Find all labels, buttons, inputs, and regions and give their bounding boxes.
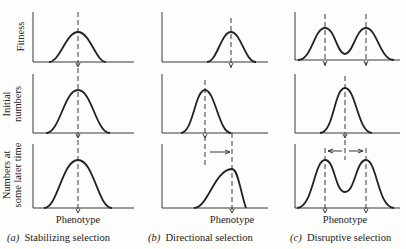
axes	[162, 144, 268, 208]
axes	[295, 74, 400, 133]
initial-label-line1: Initial	[1, 79, 12, 129]
panel-b-initial	[162, 74, 268, 133]
x-axis-label-a: Phenotype	[38, 214, 118, 225]
selection-diagram	[0, 0, 406, 249]
fitness-curve	[207, 32, 256, 62]
initial-distribution-curve	[320, 88, 372, 133]
fitness-label: Fitness	[15, 22, 26, 52]
axes	[33, 144, 134, 208]
caption-a-text: Stabilizing selection	[25, 232, 110, 243]
panel-a-later	[33, 144, 134, 208]
caption-c-letter: (c)	[290, 232, 302, 243]
caption-a: (a) Stabilizing selection	[7, 232, 110, 243]
later-distribution-curve	[297, 160, 394, 208]
initial-label-line2: numbers	[12, 79, 23, 129]
arrow-icon	[76, 209, 80, 213]
fitness-curve	[49, 32, 106, 62]
panel-a-fitness	[33, 12, 134, 62]
later-label-line2: some later time	[12, 135, 23, 215]
panel-a-initial	[33, 74, 134, 133]
later-label-line1: Numbers at	[1, 135, 12, 215]
caption-c: (c) Disruptive selection	[290, 232, 391, 243]
panel-c-initial	[295, 74, 400, 133]
axes	[33, 12, 134, 62]
row-label-fitness: Fitness	[15, 15, 26, 59]
panel-b-later	[162, 144, 268, 208]
caption-c-text: Disruptive selection	[307, 232, 391, 243]
x-axis-label-c: Phenotype	[305, 214, 385, 225]
panel-c-fitness	[295, 12, 400, 60]
initial-distribution-curve	[181, 90, 231, 133]
panel-b-fitness	[162, 12, 268, 62]
axes	[33, 74, 134, 133]
fitness-curve	[298, 28, 394, 60]
caption-a-letter: (a)	[7, 232, 19, 243]
caption-b: (b) Directional selection	[148, 232, 253, 243]
caption-b-text: Directional selection	[166, 232, 253, 243]
row-label-later-numbers: Numbers at some later time	[1, 135, 23, 215]
caption-b-letter: (b)	[148, 232, 160, 243]
row-label-initial-numbers: Initial numbers	[1, 79, 23, 129]
x-axis-label-b: Phenotype	[192, 214, 272, 225]
panel-c-later	[295, 144, 400, 208]
later-distribution-curve	[194, 169, 246, 208]
